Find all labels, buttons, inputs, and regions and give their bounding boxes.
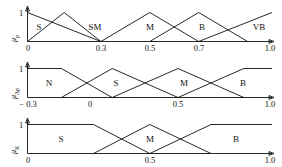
x-tick-2-0: 0.5 — [138, 43, 162, 53]
y-tick-1-2: 1 — [19, 120, 23, 130]
set-label-M-1: M — [173, 78, 195, 88]
x-tick-3-0: 0.7 — [187, 43, 211, 53]
set-label-B-2: B — [225, 134, 247, 144]
set-label-SM-0: SM — [83, 22, 107, 32]
set-label-M-2: M — [139, 134, 161, 144]
y-axis-label-1: μΔp — [9, 88, 20, 99]
x-tick-0-0: 0 — [18, 43, 38, 53]
x-tick-2-1: 0.5 — [166, 99, 190, 109]
set-label-VB-0: VB — [246, 22, 272, 32]
x-tick-1-2: 0.5 — [138, 155, 162, 165]
set-label-S-1: S — [105, 78, 127, 88]
set-label-B-1: B — [232, 78, 254, 88]
x-tick-4-0: 1.0 — [258, 43, 282, 53]
set-label-S-2: S — [50, 134, 72, 144]
chart-panel-mu-delta-p: μΔp 1 N S M B − 0.3 0 0.5 1.0 — [0, 56, 282, 112]
y-axis-label-base-0: μ — [9, 38, 18, 42]
y-axis-label-sub-2: K — [14, 146, 20, 150]
x-tick-1-1: 0 — [80, 99, 100, 109]
set-label-S-0: S — [29, 22, 49, 32]
x-tick-2-2: 1.0 — [258, 155, 282, 165]
set-label-B-0: B — [192, 22, 212, 32]
y-axis-label-base-2: μ — [9, 150, 18, 154]
curve-B-2 — [150, 125, 272, 154]
y-axis-label-0: μp — [9, 35, 20, 42]
chart-panel-mu-p: μp 1 S SM M B VB 0 0.3 0.5 0.7 — [0, 0, 282, 56]
y-axis-label-sub-1: Δp — [14, 88, 20, 95]
x-tick-3-1: 1.0 — [258, 99, 282, 109]
chart-panel-mu-k: μK 1 S M B 0 0.5 1.0 — [0, 112, 282, 167]
x-tick-0-2: 0 — [18, 155, 38, 165]
curve-S-2 — [28, 125, 150, 154]
y-tick-1-1: 1 — [19, 64, 23, 74]
x-tick-0-1: − 0.3 — [12, 99, 44, 109]
set-label-N-1: N — [38, 78, 60, 88]
set-label-M-0: M — [139, 22, 161, 32]
fuzzy-membership-figure: μp 1 S SM M B VB 0 0.3 0.5 0.7 — [0, 0, 282, 167]
y-axis-label-sub-0: p — [14, 35, 20, 38]
y-tick-1-0: 1 — [19, 8, 23, 18]
x-tick-1-0: 0.3 — [89, 43, 113, 53]
y-axis-label-2: μK — [9, 146, 20, 154]
